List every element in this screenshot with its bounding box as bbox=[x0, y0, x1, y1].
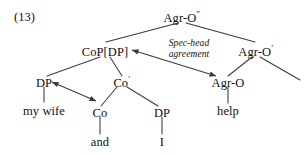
annotation-line-2: agreement bbox=[169, 49, 210, 60]
edge-agrobar-to-agro bbox=[228, 57, 252, 76]
terminal-help: help bbox=[217, 105, 239, 118]
node-agr-o-head: Agr-O bbox=[212, 75, 245, 90]
syntax-tree-figure: (13) bbox=[0, 0, 306, 155]
node-cop-dp: CoP[DP] bbox=[82, 44, 129, 59]
node-co-bar: Co′ bbox=[113, 75, 130, 90]
node-dp-complement: DP bbox=[154, 105, 170, 120]
terminal-my-wife: my wife bbox=[23, 105, 65, 118]
annotation-line-1: Spec-head bbox=[169, 38, 210, 49]
arrow-dp-to-co bbox=[52, 82, 96, 101]
node-agr-o-double-bar: Agr-O″ bbox=[163, 10, 200, 25]
edge-agrobar-to-right-cutoff bbox=[260, 57, 300, 80]
node-dp-specifier: DP bbox=[36, 75, 52, 90]
terminal-and: and bbox=[91, 136, 109, 149]
node-co-head: Co bbox=[93, 105, 108, 120]
edge-cop-to-cobar bbox=[110, 57, 122, 76]
edge-cop-to-dp bbox=[47, 57, 100, 76]
annotation-spec-head-agreement: Spec-head agreement bbox=[169, 38, 210, 59]
edge-root-to-cop bbox=[106, 23, 178, 42]
node-agr-o-bar: Agr-O′ bbox=[238, 44, 273, 59]
terminal-i: I bbox=[160, 136, 164, 149]
edge-cobar-to-dpcomp bbox=[127, 87, 158, 106]
